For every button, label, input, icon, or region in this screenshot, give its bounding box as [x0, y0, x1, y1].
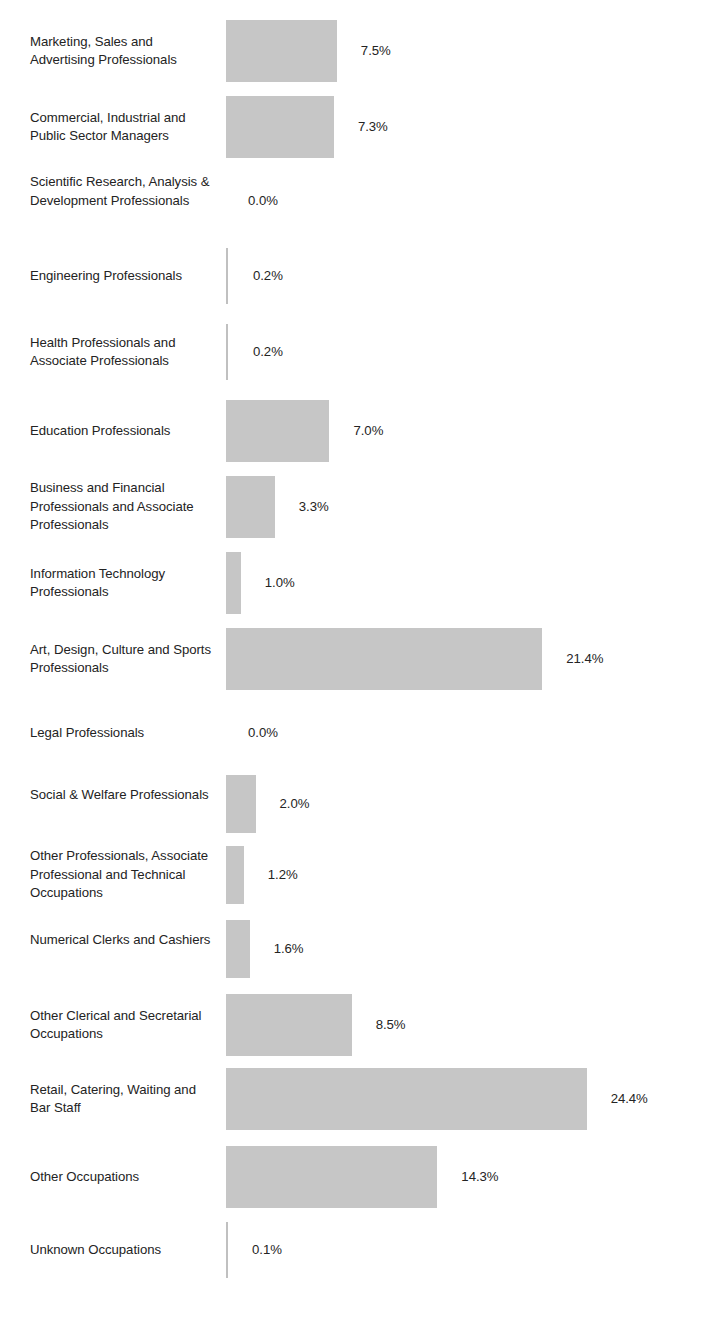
bar	[226, 775, 256, 833]
value-label: 8.5%	[376, 1017, 406, 1033]
category-label: Unknown Occupations	[30, 1241, 216, 1260]
bar-row: Marketing, Sales and Advertising Profess…	[0, 20, 720, 82]
category-label: Social & Welfare Professionals	[30, 786, 216, 805]
occupation-bar-chart: Marketing, Sales and Advertising Profess…	[0, 0, 720, 1325]
bar-row: Information Technology Professionals1.0%	[0, 552, 720, 614]
value-label: 0.2%	[253, 268, 283, 284]
bar	[226, 552, 241, 614]
value-label: 3.3%	[299, 499, 329, 515]
bar-row: Numerical Clerks and Cashiers1.6%	[0, 920, 720, 978]
category-label: Other Occupations	[30, 1168, 216, 1187]
category-label: Education Professionals	[30, 422, 216, 441]
value-label: 2.0%	[280, 796, 310, 812]
category-label: Legal Professionals	[30, 724, 216, 743]
value-label: 1.6%	[274, 941, 304, 957]
value-label: 7.3%	[358, 119, 388, 135]
bar	[226, 994, 352, 1056]
category-label: Marketing, Sales and Advertising Profess…	[30, 33, 216, 70]
category-label: Art, Design, Culture and Sports Professi…	[30, 641, 216, 678]
value-label: 1.0%	[265, 575, 295, 591]
bar	[226, 324, 228, 380]
bar	[226, 248, 228, 304]
bar-row: Art, Design, Culture and Sports Professi…	[0, 628, 720, 690]
bar-row: Other Occupations14.3%	[0, 1146, 720, 1208]
bar-row: Education Professionals7.0%	[0, 400, 720, 462]
bar-row: Other Clerical and Secretarial Occupatio…	[0, 994, 720, 1056]
category-label: Numerical Clerks and Cashiers	[30, 931, 216, 950]
bar	[226, 20, 337, 82]
value-label: 7.5%	[361, 43, 391, 59]
category-label: Other Professionals, Associate Professio…	[30, 847, 216, 903]
value-label: 14.3%	[461, 1169, 498, 1185]
value-label: 1.2%	[268, 867, 298, 883]
bar	[226, 476, 275, 538]
value-label: 0.2%	[253, 344, 283, 360]
value-label: 0.0%	[248, 725, 278, 741]
value-label: 24.4%	[611, 1091, 648, 1107]
bar	[226, 846, 244, 904]
category-label: Engineering Professionals	[30, 267, 216, 286]
bar-row: Health Professionals and Associate Profe…	[0, 324, 720, 380]
bar	[226, 1068, 587, 1130]
bar-row: Unknown Occupations0.1%	[0, 1222, 720, 1278]
bar-row: Scientific Research, Analysis & Developm…	[0, 172, 720, 230]
category-label: Business and Financial Professionals and…	[30, 479, 216, 535]
bar	[226, 1222, 228, 1278]
bar-row: Other Professionals, Associate Professio…	[0, 846, 720, 904]
bar-row: Engineering Professionals0.2%	[0, 248, 720, 304]
category-label: Information Technology Professionals	[30, 565, 216, 602]
value-label: 0.0%	[248, 193, 278, 209]
value-label: 0.1%	[252, 1242, 282, 1258]
category-label: Retail, Catering, Waiting and Bar Staff	[30, 1081, 216, 1118]
category-label: Commercial, Industrial and Public Sector…	[30, 109, 216, 146]
bar	[226, 1146, 437, 1208]
bar	[226, 920, 250, 978]
bar	[226, 628, 542, 690]
bar	[226, 96, 334, 158]
category-label: Health Professionals and Associate Profe…	[30, 334, 216, 371]
bar	[226, 400, 329, 462]
bar-row: Social & Welfare Professionals2.0%	[0, 775, 720, 833]
chart-plot-area: Marketing, Sales and Advertising Profess…	[0, 0, 720, 1325]
category-label: Scientific Research, Analysis & Developm…	[30, 173, 216, 210]
value-label: 21.4%	[566, 651, 603, 667]
bar-row: Business and Financial Professionals and…	[0, 476, 720, 538]
bar-row: Legal Professionals0.0%	[0, 704, 720, 762]
bar-row: Retail, Catering, Waiting and Bar Staff2…	[0, 1068, 720, 1130]
value-label: 7.0%	[353, 423, 383, 439]
category-label: Other Clerical and Secretarial Occupatio…	[30, 1007, 216, 1044]
bar-row: Commercial, Industrial and Public Sector…	[0, 96, 720, 158]
